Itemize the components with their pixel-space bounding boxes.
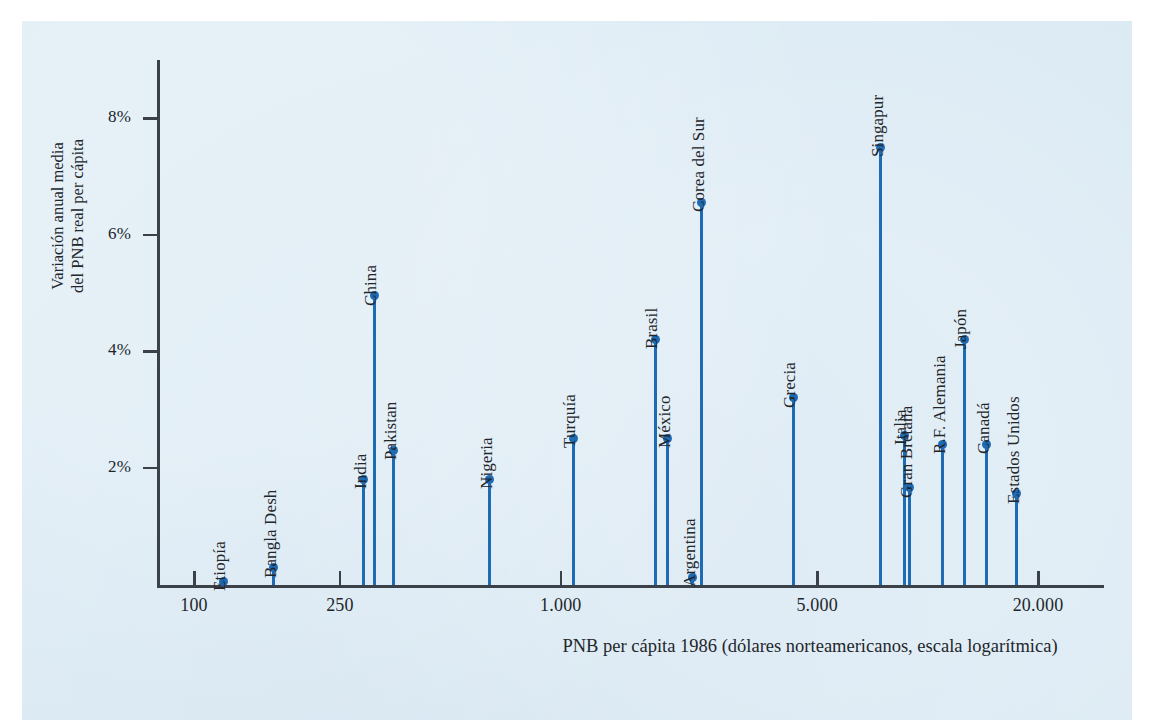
- x-tick-mark: [816, 571, 819, 586]
- x-axis-title: PNB per cápita 1986 (dólares norteameric…: [560, 634, 1060, 659]
- y-tick-label: 4%: [61, 340, 131, 360]
- data-point-label: Corea del Sur: [689, 118, 709, 213]
- data-point-label: Singapur: [868, 95, 888, 157]
- data-point-label: Brasil: [642, 308, 662, 349]
- y-tick-label: 6%: [61, 224, 131, 244]
- data-stem[interactable]: [792, 398, 795, 585]
- chart-page: Variación anual media del PNB real per c…: [0, 0, 1157, 720]
- x-tick-mark: [1037, 571, 1040, 586]
- y-tick-label: 2%: [61, 457, 131, 477]
- data-stem[interactable]: [488, 479, 491, 585]
- data-stem[interactable]: [963, 339, 966, 585]
- data-point-label: México: [655, 396, 675, 449]
- x-axis-line: [157, 585, 1104, 588]
- data-stem[interactable]: [1015, 494, 1018, 585]
- data-stem[interactable]: [879, 147, 882, 585]
- data-stem[interactable]: [700, 202, 703, 585]
- data-stem[interactable]: [985, 444, 988, 585]
- data-point-label: Japón: [951, 309, 971, 349]
- data-point-label: Canadá: [974, 403, 994, 455]
- data-point-label: Pakistan: [381, 402, 401, 460]
- data-point-label: India: [351, 454, 371, 489]
- data-point-label: Nigeria: [477, 437, 497, 489]
- x-tick-mark: [193, 571, 196, 586]
- x-tick-label: 1.000: [501, 595, 621, 616]
- data-stem[interactable]: [392, 450, 395, 585]
- data-point-label: Estados Unidos: [1004, 396, 1024, 504]
- data-point-label: Bangla Desh: [261, 489, 281, 577]
- y-tick-mark: [143, 234, 159, 237]
- data-stem[interactable]: [941, 444, 944, 585]
- x-tick-label: 5.000: [757, 595, 877, 616]
- x-tick-mark: [560, 571, 563, 586]
- data-point-label: Etiopía: [210, 541, 230, 591]
- x-tick-label: 100: [134, 595, 254, 616]
- x-tick-mark: [339, 571, 342, 586]
- data-point-label: China: [361, 265, 381, 306]
- data-point-label: R.F. Alemania: [930, 356, 950, 455]
- x-tick-label: 250: [280, 595, 400, 616]
- y-tick-mark: [143, 467, 159, 470]
- chart-plot-area: Variación anual media del PNB real per c…: [0, 0, 1157, 720]
- data-stem[interactable]: [654, 339, 657, 585]
- y-tick-mark: [143, 350, 159, 353]
- data-point-label: Turquía: [560, 394, 580, 448]
- data-stem[interactable]: [666, 438, 669, 585]
- x-tick-label: 20.000: [978, 595, 1098, 616]
- y-tick-label: 8%: [61, 107, 131, 127]
- data-point-label: Argentina: [680, 518, 700, 587]
- y-tick-mark: [143, 117, 159, 120]
- data-stem[interactable]: [373, 296, 376, 585]
- y-axis-line: [157, 60, 160, 587]
- data-point-label: Gran Bretaña: [897, 406, 917, 498]
- data-stem[interactable]: [572, 438, 575, 585]
- data-point-label: Grecia: [780, 362, 800, 408]
- data-stem[interactable]: [362, 479, 365, 585]
- data-stem[interactable]: [908, 488, 911, 585]
